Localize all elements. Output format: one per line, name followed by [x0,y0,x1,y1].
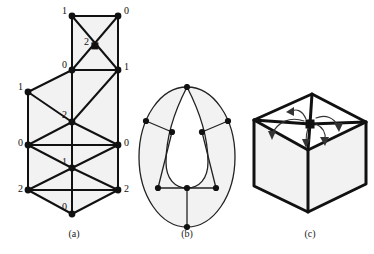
vertex-marker [115,13,122,20]
vertex-marker [199,129,205,135]
vertex-label-v-mid-left: 0 [62,59,67,70]
vertex-marker [25,89,32,96]
vertex-marker [69,165,76,172]
vertex-label-v-top-right: 0 [124,5,129,16]
vertex-label-v-bottom: 0 [62,201,67,212]
vertex-marker [69,211,76,218]
vertex-marker [69,119,76,126]
vertex-label-v-center-square: 2 [84,36,89,47]
vertex-marker [169,129,175,135]
vertex-marker-square [91,42,98,49]
vertex-label-v-left-mid: 0 [18,137,23,148]
vertex-marker [69,67,76,74]
caption-a: (a) [54,228,94,239]
vertex-marker [184,84,190,90]
vertex-marker-square [306,120,315,129]
figure-b-oval-graph [128,84,246,230]
vertex-marker [143,118,149,124]
figure-c-vertices [306,120,315,129]
vertex-marker [69,13,76,20]
vertex-marker [184,185,190,191]
vertex-label-v-left-upper: 1 [18,81,23,92]
vertex-marker [115,187,122,194]
figure-panel: 1 0 2 0 1 1 2 0 0 1 2 2 0 [0,0,374,254]
caption-c: (c) [290,228,330,239]
vertex-marker [225,118,231,124]
vertex-label-v-left-lower: 2 [18,183,23,194]
caption-b: (b) [167,228,207,239]
vertex-marker [115,67,122,74]
vertex-label-v-mid-right: 1 [124,61,129,72]
vertex-marker [213,185,219,191]
vertex-label-v-core-upper: 2 [62,109,67,120]
vertex-marker [25,142,32,149]
vertex-label-v-top-left: 1 [62,5,67,16]
vertex-label-v-core-lower: 1 [62,156,67,167]
vertex-marker [155,185,161,191]
vertex-marker [115,142,122,149]
vertex-marker [25,187,32,194]
figure-c-cube-with-arrows [246,88,374,216]
